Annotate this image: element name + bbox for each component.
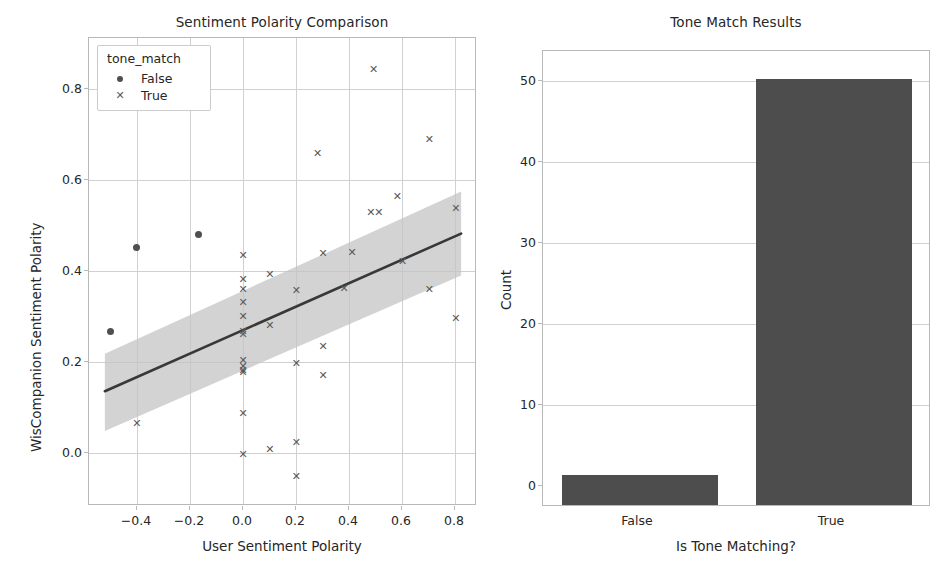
scatter-point-true: ✕: [451, 204, 460, 213]
scatter-xtick-mark: [189, 506, 190, 510]
scatter-xtick-mark: [401, 506, 402, 510]
legend-item-true[interactable]: ✕ True: [107, 87, 201, 104]
scatter-point-false: [195, 231, 202, 238]
legend-item-label: True: [141, 88, 168, 103]
scatter-y-axis-label: WisCompanion Sentiment Polarity: [28, 222, 44, 452]
scatter-title: Sentiment Polarity Comparison: [88, 14, 476, 30]
scatter-point-true: ✕: [292, 472, 301, 481]
scatter-point-true: ✕: [393, 192, 402, 201]
scatter-point-false: [107, 328, 114, 335]
scatter-point-true: ✕: [239, 368, 248, 377]
scatter-point-true: ✕: [348, 248, 357, 257]
scatter-xtick-label: −0.2: [159, 513, 219, 528]
scatter-point-false: [133, 244, 140, 251]
bar-ytick-label: 30: [500, 235, 536, 250]
scatter-xtick-mark: [136, 506, 137, 510]
scatter-xtick-label: −0.4: [106, 513, 166, 528]
scatter-point-true: ✕: [313, 149, 322, 158]
scatter-xtick-mark: [348, 506, 349, 510]
scatter-point-true: ✕: [239, 285, 248, 294]
scatter-point-true: ✕: [318, 371, 327, 380]
scatter-ytick-label: 0.6: [42, 172, 82, 187]
bar-x-axis-label: Is Tone Matching?: [542, 538, 930, 554]
scatter-legend[interactable]: tone_match False ✕ True: [97, 45, 211, 111]
scatter-xtick-label: 0.8: [424, 513, 484, 528]
scatter-point-true: ✕: [239, 409, 248, 418]
scatter-point-true: ✕: [374, 208, 383, 217]
bar-plot-area: [542, 50, 930, 506]
scatter-point-true: ✕: [265, 445, 274, 454]
scatter-ytick-label: 0.2: [42, 354, 82, 369]
scatter-point-true: ✕: [292, 438, 301, 447]
scatter-point-true: ✕: [239, 312, 248, 321]
bar-xtick-label: True: [781, 513, 881, 528]
bar-ytick-label: 20: [500, 316, 536, 331]
scatter-point-true: ✕: [451, 314, 460, 323]
bar-false[interactable]: [562, 475, 717, 506]
scatter-point-true: ✕: [292, 359, 301, 368]
scatter-x-axis-label: User Sentiment Polarity: [88, 538, 476, 554]
scatter-point-true: ✕: [265, 270, 274, 279]
scatter-point-true: ✕: [239, 298, 248, 307]
scatter-point-true: ✕: [265, 321, 274, 330]
scatter-point-true: ✕: [239, 450, 248, 459]
bar-true[interactable]: [756, 79, 911, 506]
scatter-xtick-label: 0.0: [212, 513, 272, 528]
scatter-point-true: ✕: [425, 135, 434, 144]
scatter-point-true: ✕: [132, 419, 141, 428]
legend-item-false[interactable]: False: [107, 70, 201, 87]
scatter-point-true: ✕: [318, 249, 327, 258]
legend-item-label: False: [141, 71, 172, 86]
scatter-point-true: ✕: [292, 286, 301, 295]
scatter-plot-area: ✕✕✕✕✕✕✕✕✕✕✕✕✕✕✕✕✕✕✕✕✕✕✕✕✕✕✕✕✕✕✕✕✕✕✕✕ ton…: [88, 37, 476, 505]
bar-ytick-label: 0: [500, 478, 536, 493]
bar-layer: [543, 51, 930, 506]
bar-xtick-label: False: [587, 513, 687, 528]
scatter-point-true: ✕: [318, 342, 327, 351]
bar-ytick-label: 10: [500, 397, 536, 412]
scatter-ytick-label: 0.0: [42, 445, 82, 460]
bar-ytick-label: 50: [500, 73, 536, 88]
bar-title: Tone Match Results: [542, 14, 930, 30]
scatter-xtick-mark: [295, 506, 296, 510]
scatter-point-true: ✕: [239, 251, 248, 260]
scatter-xtick-mark: [242, 506, 243, 510]
scatter-ytick-label: 0.8: [42, 81, 82, 96]
bar-panel: Tone Match Results Count 50 40 30 20 10 …: [490, 0, 952, 577]
scatter-panel: Sentiment Polarity Comparison WisCompani…: [0, 0, 500, 577]
legend-title: tone_match: [107, 51, 201, 66]
legend-circle-icon: [107, 72, 133, 85]
scatter-xtick-label: 0.2: [265, 513, 325, 528]
scatter-point-true: ✕: [398, 257, 407, 266]
bar-ytick-label: 40: [500, 154, 536, 169]
figure-canvas: Sentiment Polarity Comparison WisCompani…: [0, 0, 952, 577]
scatter-point-true: ✕: [239, 330, 248, 339]
scatter-point-true: ✕: [425, 285, 434, 294]
scatter-point-true: ✕: [369, 65, 378, 74]
legend-x-icon: ✕: [107, 89, 133, 102]
scatter-point-true: ✕: [340, 284, 349, 293]
scatter-xtick-label: 0.4: [318, 513, 378, 528]
scatter-xtick-mark: [454, 506, 455, 510]
bar-y-axis-label: Count: [498, 270, 514, 310]
scatter-xtick-label: 0.6: [371, 513, 431, 528]
scatter-ytick-label: 0.4: [42, 263, 82, 278]
